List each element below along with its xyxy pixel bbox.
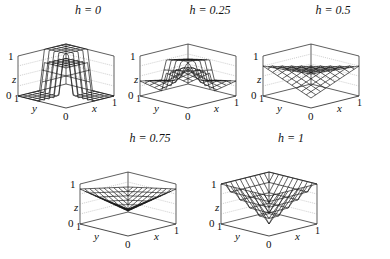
origin-tick: 0 — [266, 238, 272, 250]
origin-tick: 0 — [308, 110, 314, 122]
z-tick-0: 0 — [209, 217, 215, 229]
origin-tick: 0 — [125, 238, 131, 250]
z-axis-label: z — [73, 201, 79, 213]
z-tick-0: 0 — [68, 217, 74, 229]
y-axis-label: y — [31, 102, 37, 114]
y-tick-1: 1 — [76, 221, 81, 232]
panel-title: h = 0.5 — [315, 3, 350, 17]
y-axis-label: y — [153, 102, 159, 114]
z-tick-1: 1 — [8, 50, 14, 62]
surface-panel-5: h = 11z01y0x1 — [209, 131, 320, 250]
x-tick-1: 1 — [315, 225, 320, 236]
surface-panel-1: h = 01z01y0x1 — [6, 3, 117, 122]
axes-box — [18, 44, 114, 96]
surface-panel-4: h = 0.751z01y0x1 — [68, 131, 179, 250]
axes-box — [221, 172, 317, 224]
z-axis-label: z — [214, 201, 220, 213]
z-axis-label: z — [256, 73, 262, 85]
y-axis-label: y — [93, 230, 99, 242]
z-tick-0: 0 — [251, 89, 257, 101]
axes-box — [263, 44, 359, 96]
x-tick-1: 1 — [174, 225, 179, 236]
z-axis-label: z — [133, 73, 139, 85]
axes-box — [80, 172, 176, 224]
x-tick-1: 1 — [234, 97, 239, 108]
z-tick-1: 1 — [70, 178, 76, 190]
panel-title: h = 0.75 — [129, 131, 170, 145]
y-tick-1: 1 — [259, 93, 264, 104]
panel-title: h = 1 — [278, 131, 304, 145]
surface-panel-3: h = 0.51z01y0x1 — [251, 3, 362, 122]
x-axis-label: x — [213, 102, 219, 114]
figure: h = 01z01y0x1h = 0.251z01y0x1h = 0.51z01… — [0, 0, 390, 259]
z-tick-0: 0 — [128, 89, 134, 101]
z-tick-0: 0 — [6, 89, 12, 101]
origin-tick: 0 — [185, 110, 191, 122]
y-tick-1: 1 — [136, 93, 141, 104]
y-tick-1: 1 — [14, 93, 19, 104]
y-axis-label: y — [234, 230, 240, 242]
x-axis-label: x — [153, 230, 159, 242]
z-tick-1: 1 — [253, 50, 259, 62]
x-tick-1: 1 — [112, 97, 117, 108]
z-tick-1: 1 — [211, 178, 217, 190]
y-axis-label: y — [276, 102, 282, 114]
z-tick-1: 1 — [130, 50, 136, 62]
x-tick-1: 1 — [357, 97, 362, 108]
z-axis-label: z — [11, 73, 17, 85]
panel-title: h = 0 — [75, 3, 101, 17]
origin-tick: 0 — [63, 110, 69, 122]
x-axis-label: x — [294, 230, 300, 242]
y-tick-1: 1 — [217, 221, 222, 232]
panel-title: h = 0.25 — [189, 3, 230, 17]
x-axis-label: x — [91, 102, 97, 114]
surface-panel-2: h = 0.251z01y0x1 — [128, 3, 239, 122]
x-axis-label: x — [336, 102, 342, 114]
